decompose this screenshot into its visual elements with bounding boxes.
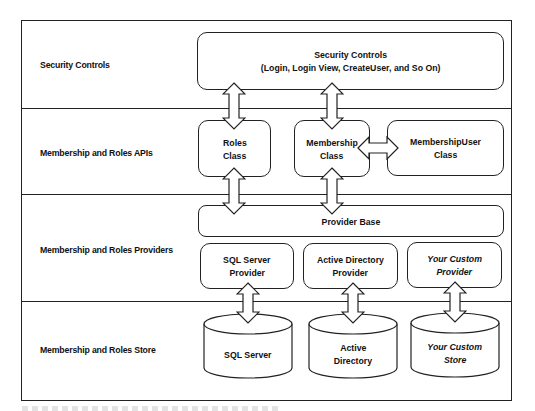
sql-server-provider-label-1: SQL Server <box>223 253 270 266</box>
active-directory-provider-label-1: Active Directory <box>317 253 384 266</box>
roles-class-label-2: Class <box>223 149 246 162</box>
custom-provider-label-2: Provider <box>437 265 472 278</box>
membership-class-label-2: Class <box>320 149 343 162</box>
security-controls-title: Security Controls <box>314 48 387 61</box>
row-label-providers: Membership and Roles Providers <box>40 244 173 255</box>
architecture-diagram: Security Controls Membership and Roles A… <box>0 0 535 411</box>
custom-store-label-1: Your Custom <box>428 340 483 353</box>
security-controls-subtitle: (Login, Login View, CreateUser, and So O… <box>261 61 441 74</box>
double-arrow-icon <box>222 82 246 130</box>
custom-store-label-2: Store <box>444 353 466 366</box>
row-divider-3 <box>21 301 512 302</box>
double-arrow-icon <box>320 82 344 130</box>
custom-provider-label-1: Your Custom <box>427 252 482 265</box>
active-directory-store-label-2: Directory <box>334 354 372 367</box>
membership-user-class-label-2: Class <box>434 148 457 161</box>
double-arrow-icon <box>236 282 260 324</box>
row-divider-2 <box>21 194 512 195</box>
active-directory-provider-label-2: Provider <box>333 266 368 279</box>
double-arrow-icon <box>320 167 344 215</box>
double-arrow-icon <box>222 167 246 215</box>
membership-class-label-1: Membership <box>306 136 357 149</box>
sql-server-provider-label-2: Provider <box>229 266 264 279</box>
active-directory-store-label-1: Active <box>340 341 366 354</box>
membership-user-class-label-1: MembershipUser <box>410 135 481 148</box>
provider-base-label: Provider Base <box>322 215 381 228</box>
double-arrow-horizontal-icon <box>357 136 399 160</box>
row-label-security-controls: Security Controls <box>40 59 110 70</box>
roles-class-label-1: Roles <box>223 136 247 149</box>
double-arrow-icon <box>341 282 365 324</box>
row-label-store: Membership and Roles Store <box>40 344 156 355</box>
row-divider-1 <box>21 108 512 109</box>
sql-server-store-label: SQL Server <box>224 348 271 361</box>
row-label-apis: Membership and Roles APIs <box>40 147 153 158</box>
double-arrow-icon <box>443 281 467 323</box>
cropped-caption <box>22 406 282 411</box>
membership-user-class-box: MembershipUser Class <box>387 120 504 176</box>
